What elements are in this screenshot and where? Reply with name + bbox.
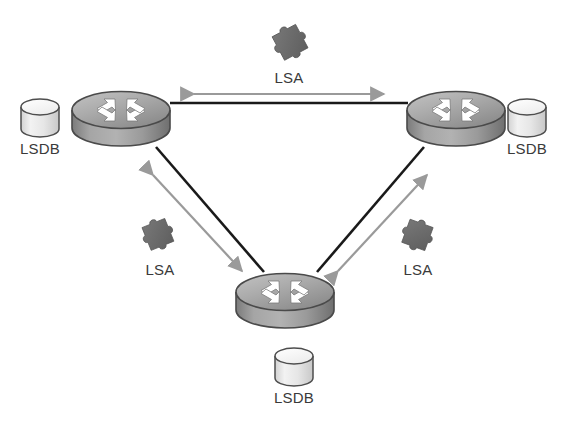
lsdb-icon-right — [508, 99, 546, 137]
router-icons — [72, 92, 505, 329]
lsdb-label-left: LSDB — [10, 140, 70, 157]
lsdb-label-right: LSDB — [497, 140, 557, 157]
puzzle-piece-icon-top — [267, 20, 312, 65]
router-icon-bottom[interactable] — [236, 274, 334, 329]
lsdb-label-bottom: LSDB — [264, 389, 324, 406]
lsa-label-left: LSA — [130, 261, 190, 278]
link-right-line — [317, 147, 424, 272]
link-left-line — [156, 147, 264, 272]
router-icon-top-left[interactable] — [72, 92, 170, 147]
diagram-canvas — [0, 0, 574, 430]
router-links — [156, 103, 424, 272]
network-diagram: LSDB LSDB LSDB LSA LSA LSA — [0, 0, 574, 430]
puzzle-piece-icon-right — [398, 215, 438, 255]
lsa-arrows — [153, 94, 427, 271]
puzzle-icons — [138, 20, 437, 255]
lsa-label-right: LSA — [388, 261, 448, 278]
lsdb-icon-left — [21, 99, 59, 137]
router-icon-top-right[interactable] — [407, 92, 505, 147]
lsa-label-top: LSA — [259, 69, 319, 86]
lsdb-icon-bottom — [275, 348, 313, 386]
puzzle-piece-icon-left — [138, 214, 178, 254]
